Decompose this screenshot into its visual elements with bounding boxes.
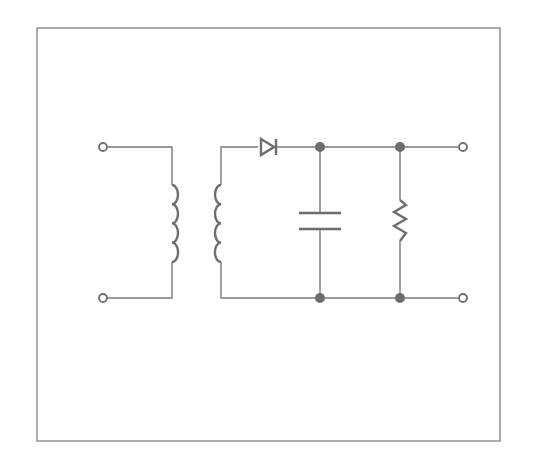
input-top-terminal — [99, 143, 107, 151]
output-bottom-terminal — [459, 294, 467, 302]
diagram-frame — [37, 28, 500, 441]
input-bottom-terminal — [99, 294, 107, 302]
junction-node — [315, 293, 325, 303]
circuit-diagram — [0, 0, 555, 460]
output-top-terminal — [459, 143, 467, 151]
junction-node — [395, 142, 405, 152]
junction-node — [395, 293, 405, 303]
junction-node — [315, 142, 325, 152]
